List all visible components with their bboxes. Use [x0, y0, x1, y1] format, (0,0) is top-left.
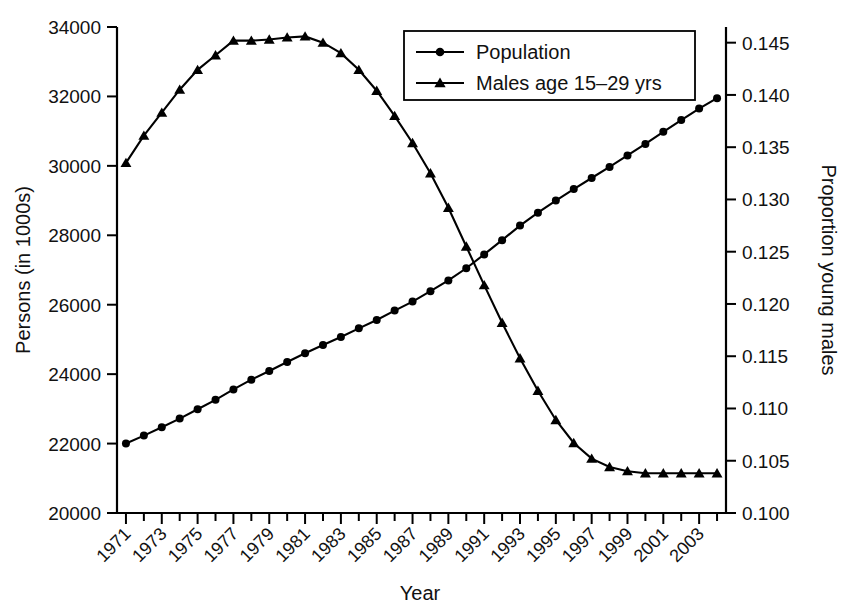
data-point-marker — [283, 358, 291, 366]
y-axis-left-tick-label: 20000 — [48, 503, 101, 524]
data-point-marker — [391, 307, 399, 315]
data-point-marker — [212, 396, 220, 404]
y-axis-right-tick-label: 0.115 — [742, 346, 788, 367]
data-point-marker — [176, 415, 184, 423]
y-axis-right-title: Proportion young males — [818, 164, 840, 375]
y-axis-left-tick-label: 34000 — [48, 17, 101, 38]
data-point-marker — [444, 276, 452, 284]
data-point-marker — [462, 264, 470, 272]
data-point-marker — [516, 222, 524, 230]
legend-label: Males age 15–29 yrs — [476, 72, 662, 94]
y-axis-right-tick-label: 0.130 — [742, 189, 790, 210]
data-point-marker — [319, 341, 327, 349]
legend-label: Population — [476, 41, 571, 63]
data-point-marker — [588, 174, 596, 182]
y-axis-right-tick-label: 0.125 — [742, 242, 790, 263]
y-axis-left-tick-label: 32000 — [48, 86, 101, 107]
y-axis-right-tick-label: 0.100 — [742, 503, 790, 524]
data-point-marker — [247, 376, 255, 384]
data-point-marker — [355, 324, 363, 332]
y-axis-left-tick-label: 28000 — [48, 225, 101, 246]
data-point-marker — [337, 333, 345, 341]
data-point-marker — [194, 405, 202, 413]
data-point-marker — [373, 316, 381, 324]
data-point-marker — [570, 185, 578, 193]
y-axis-left-title: Persons (in 1000s) — [12, 186, 34, 354]
y-axis-left-tick-label: 24000 — [48, 364, 101, 385]
y-axis-left-tick-label: 22000 — [48, 434, 101, 455]
data-point-marker — [426, 287, 434, 295]
data-point-marker — [534, 209, 542, 217]
data-point-marker — [301, 349, 309, 357]
data-point-marker — [695, 105, 703, 113]
data-point-marker — [623, 151, 631, 159]
data-point-marker — [265, 367, 273, 375]
data-point-marker — [480, 250, 488, 258]
y-axis-right-tick-label: 0.105 — [742, 451, 790, 472]
data-point-marker — [659, 128, 667, 136]
data-point-marker — [552, 197, 560, 205]
data-point-marker — [498, 236, 506, 244]
data-point-marker — [677, 116, 685, 124]
chart-legend: PopulationMales age 15–29 yrs — [404, 31, 695, 100]
data-point-marker — [606, 163, 614, 171]
y-axis-left-tick-label: 30000 — [48, 156, 101, 177]
y-axis-left-tick-label: 26000 — [48, 295, 101, 316]
y-axis-right-tick-label: 0.145 — [742, 33, 790, 54]
legend-marker-circle — [436, 48, 445, 57]
data-point-marker — [229, 385, 237, 393]
y-axis-right-tick-label: 0.110 — [742, 398, 788, 419]
data-point-marker — [158, 423, 166, 431]
data-point-marker — [713, 94, 721, 102]
y-axis-right-tick-label: 0.135 — [742, 137, 790, 158]
x-axis-title: Year — [400, 582, 441, 604]
dual-axis-line-chart: 2000022000240002600028000300003200034000… — [0, 0, 845, 610]
chart-figure: 2000022000240002600028000300003200034000… — [0, 0, 845, 610]
data-point-marker — [122, 440, 130, 448]
data-point-marker — [409, 298, 417, 306]
y-axis-right-tick-label: 0.140 — [742, 85, 790, 106]
y-axis-right-tick-label: 0.120 — [742, 294, 790, 315]
data-point-marker — [140, 432, 148, 440]
data-point-marker — [641, 140, 649, 148]
